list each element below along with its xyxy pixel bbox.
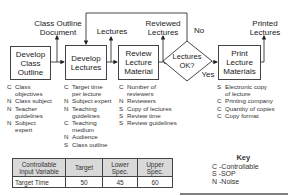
cell-lower-spec: 45 [103,177,138,188]
inputs-develop-class-outline: CClass objectives NClass subject NTeache… [7,83,59,133]
output-class-outline-document: Class Outline Document [28,19,88,37]
step-review-lecture-material: Review Lecture Material [118,45,159,80]
key-title: Key [212,154,259,162]
spec-table-header: Controllable Input Variable Target Lower… [13,159,173,177]
inputs-develop-lectures: CTarget time per lecture NSubject expert… [64,83,116,148]
decision-yes-label: Yes [199,70,217,79]
cell-variable: Target Time [13,177,66,188]
key-item-sop: S -SOP [212,170,259,178]
key-item-noise: N -Noise [212,178,259,186]
decision-lectures-ok: Lectures OK? [168,53,206,70]
decision-no-label: No [192,26,206,35]
output-lectures: Lectures [92,27,132,36]
table-row: Target Time 50 45 60 [13,177,173,188]
output-printed-lectures: Printed Lectures [245,19,285,37]
step-develop-lectures: Develop Lectures [65,45,107,80]
inputs-print-lecture-materials: SElectronic copy of lecture CPrinting co… [217,83,281,119]
cell-target: 50 [66,177,103,188]
header-lower-spec: Lower Spec. [103,159,138,177]
key-item-controllable: C -Controllable [212,163,259,171]
spec-table: Controllable Input Variable Target Lower… [12,158,173,188]
inputs-review-lecture-material: CNumber of reviewers NReviewers SCopy of… [119,83,179,126]
header-target: Target [66,159,103,177]
cell-upper-spec: 60 [138,177,173,188]
header-variable: Controllable Input Variable [13,159,66,177]
legend-key: Key C -Controllable S -SOP N -Noise [212,154,259,185]
step-print-lecture-materials: Print Lecture Materials [218,45,261,80]
output-reviewed-lectures: Reviewed Lectures [142,19,184,37]
header-upper-spec: Upper Spec. [138,159,173,177]
step-develop-class-outline: Develop Class Outline [10,46,51,80]
